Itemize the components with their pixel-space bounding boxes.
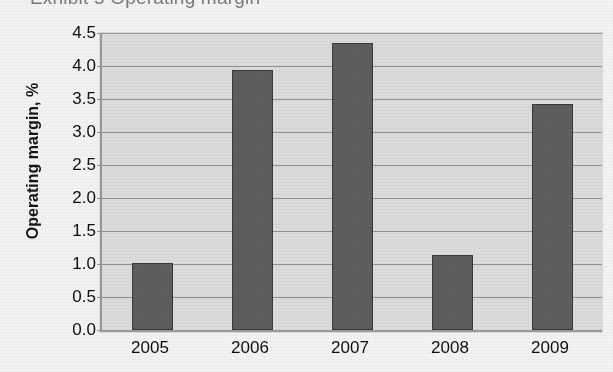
y-tick-label: 1.0 (40, 254, 96, 274)
x-tick-label: 2008 (431, 338, 469, 358)
y-tick-label: 4.0 (40, 56, 96, 76)
y-tick-label: 4.5 (40, 23, 96, 43)
y-tick-label: 2.5 (40, 155, 96, 175)
bar (132, 263, 173, 330)
y-axis-tick-labels: 0.00.51.01.52.02.53.03.54.04.5 (40, 0, 96, 372)
bar (432, 255, 473, 330)
y-tick-label: 3.5 (40, 89, 96, 109)
bars-layer (102, 33, 602, 330)
bar (232, 70, 273, 330)
bar-chart-figure: Exhibit 5 Operating margin Operating mar… (0, 0, 613, 372)
y-tick-label: 3.0 (40, 122, 96, 142)
y-tick-label: 2.0 (40, 188, 96, 208)
x-tick-label: 2006 (231, 338, 269, 358)
plot-area (100, 33, 602, 332)
bar (532, 104, 573, 330)
bar (332, 43, 373, 330)
x-tick-label: 2009 (531, 338, 569, 358)
y-tick-label: 1.5 (40, 221, 96, 241)
x-tick-label: 2005 (131, 338, 169, 358)
x-tick-label: 2007 (331, 338, 369, 358)
y-tick-label: 0.5 (40, 287, 96, 307)
x-axis-tick-labels: 20052006200720082009 (100, 338, 600, 366)
y-tick-label: 0.0 (40, 320, 96, 340)
